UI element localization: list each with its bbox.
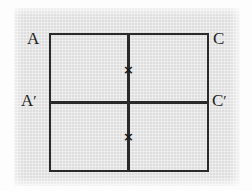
label-a-prime-mark: ′ [33, 93, 36, 109]
label-a: A [27, 30, 39, 47]
label-c: C [213, 30, 224, 47]
figure-canvas: × × A C A′ C′ [0, 0, 252, 191]
cross-marker-lower: × [122, 130, 135, 143]
label-a-prime: A′ [21, 92, 37, 109]
label-c-prime: C′ [212, 92, 227, 109]
cross-marker-upper: × [122, 63, 135, 76]
label-c-prime-base: C [212, 91, 223, 110]
label-c-prime-mark: ′ [223, 93, 226, 109]
label-a-prime-base: A [21, 91, 33, 110]
divider-horizontal-line [49, 101, 209, 104]
